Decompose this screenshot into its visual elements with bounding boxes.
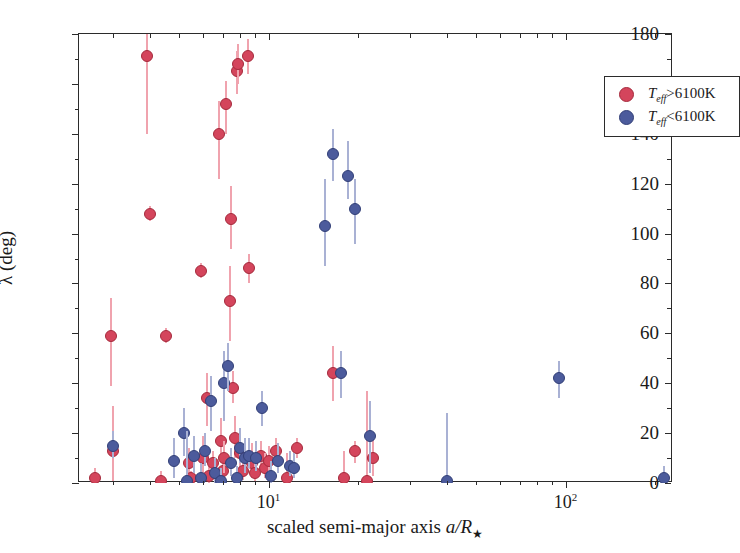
data-point [107, 440, 119, 452]
y-minor-tick-left [75, 59, 79, 60]
x-minor-tick-top [113, 34, 114, 38]
data-point [160, 330, 172, 342]
x-minor-tick-top [179, 34, 180, 38]
x-minor-tick-bottom [113, 481, 114, 485]
y-axis-title: λ (deg) [0, 231, 17, 285]
x-minor-tick-bottom [537, 481, 538, 485]
x-tick-top [269, 34, 270, 40]
x-minor-tick-bottom [552, 481, 553, 485]
x-minor-tick-top [500, 34, 501, 38]
data-point [155, 475, 167, 484]
x-minor-tick-top [203, 34, 204, 38]
x-minor-tick-bottom [410, 481, 411, 485]
red-circle-marker-icon [619, 87, 634, 102]
y-minor-tick-left [75, 109, 79, 110]
y-tick-right [665, 483, 671, 484]
legend-item-cool: Teff<6100K [613, 106, 731, 129]
y-tick-label: 100 [631, 223, 660, 245]
x-minor-tick-top [410, 34, 411, 38]
y-minor-tick-left [75, 458, 79, 459]
y-minor-tick-right [667, 458, 671, 459]
y-tick-right [665, 283, 671, 284]
x-minor-tick-top [358, 34, 359, 38]
x-minor-tick-bottom [240, 481, 241, 485]
x-tick-label: 102 [554, 491, 578, 519]
y-tick-label: 40 [640, 372, 659, 394]
x-minor-tick-top [520, 34, 521, 38]
blue-circle-marker-icon [619, 110, 634, 125]
x-minor-tick-bottom [150, 481, 151, 485]
y-tick-label: 60 [640, 322, 659, 344]
x-tick-label: 101 [257, 491, 281, 519]
data-point [327, 148, 339, 160]
y-tick-major [72, 283, 79, 284]
data-point [256, 402, 268, 414]
y-minor-tick-right [667, 408, 671, 409]
y-minor-tick-right [667, 159, 671, 160]
x-minor-tick-bottom [223, 481, 224, 485]
x-minor-tick-top [150, 34, 151, 38]
y-tick-label: 80 [640, 272, 659, 294]
y-minor-tick-left [75, 358, 79, 359]
data-point [338, 472, 350, 483]
x-minor-tick-top [447, 34, 448, 38]
legend-box: Teff>6100K Teff<6100K [604, 76, 740, 137]
y-tick-label: 120 [631, 173, 660, 195]
x-minor-tick-top [476, 34, 477, 38]
data-point [181, 475, 193, 484]
y-minor-tick-left [75, 308, 79, 309]
x-minor-tick-bottom [655, 481, 656, 485]
legend-label-cool: Teff<6100K [648, 108, 716, 127]
data-point [342, 170, 354, 182]
data-point [242, 50, 254, 62]
y-minor-tick-right [667, 59, 671, 60]
y-tick-major [72, 234, 79, 235]
x-minor-tick-bottom [520, 481, 521, 485]
x-minor-tick-top [537, 34, 538, 38]
data-point [225, 213, 237, 225]
data-point [272, 455, 284, 467]
x-minor-tick-bottom [500, 481, 501, 485]
x-minor-tick-bottom [476, 481, 477, 485]
x-minor-tick-bottom [255, 481, 256, 485]
y-minor-tick-right [667, 259, 671, 260]
legend-item-hot: Teff>6100K [613, 83, 731, 106]
data-point [144, 208, 156, 220]
data-point [265, 470, 277, 482]
star-symbol: ★ [472, 527, 483, 541]
y-tick-major [72, 483, 79, 484]
data-point [199, 445, 211, 457]
y-tick-right [665, 234, 671, 235]
x-minor-tick-bottom [179, 481, 180, 485]
y-tick-right [665, 433, 671, 434]
data-point [243, 262, 255, 274]
y-tick-right [665, 34, 671, 35]
error-bar [446, 413, 448, 483]
y-tick-major [72, 383, 79, 384]
error-bar [146, 34, 148, 134]
data-point [215, 475, 227, 484]
data-point [220, 98, 232, 110]
data-point [205, 395, 217, 407]
x-axis-title: scaled semi-major axis a/R★ [267, 516, 483, 542]
x-minor-tick-top [255, 34, 256, 38]
data-point [222, 360, 234, 372]
y-minor-tick-left [75, 209, 79, 210]
data-point [349, 203, 361, 215]
data-layer [79, 34, 673, 483]
y-axis-title-text: λ (deg) [0, 231, 16, 285]
y-minor-tick-right [667, 209, 671, 210]
x-minor-tick-top [223, 34, 224, 38]
y-tick-major [72, 184, 79, 185]
y-tick-right [665, 383, 671, 384]
x-axis-title-variable: a/R [446, 516, 472, 537]
data-point [224, 295, 236, 307]
data-point [195, 472, 207, 483]
y-minor-tick-right [667, 308, 671, 309]
x-minor-tick-bottom [358, 481, 359, 485]
data-point [141, 50, 153, 62]
data-point [213, 128, 225, 140]
data-point [349, 445, 361, 457]
x-tick-top [566, 34, 567, 40]
